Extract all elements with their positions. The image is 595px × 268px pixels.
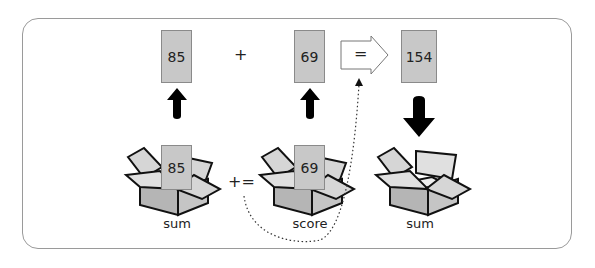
- dotted-flow-arrow-icon: [0, 0, 595, 268]
